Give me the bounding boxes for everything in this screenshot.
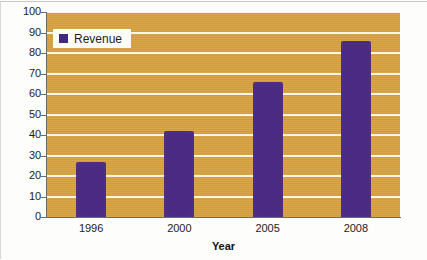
x-axis-title: Year <box>47 240 400 252</box>
y-axis-tick-label: 20 <box>3 170 41 181</box>
y-axis-line <box>46 12 47 218</box>
y-axis-tick-label: 0 <box>3 211 41 222</box>
x-axis-line <box>46 217 401 218</box>
y-axis-tick <box>41 74 46 75</box>
page-top-rule <box>0 1 427 2</box>
y-axis-tick <box>41 217 46 218</box>
y-axis-tick <box>41 156 46 157</box>
legend-swatch-revenue <box>59 34 68 43</box>
y-axis-tick <box>41 53 46 54</box>
y-axis-tick-label: 40 <box>3 129 41 140</box>
y-axis-tick <box>41 197 46 198</box>
y-axis-tick <box>41 115 46 116</box>
y-axis-tick-label: 100 <box>3 6 41 17</box>
y-axis-tick <box>41 176 46 177</box>
legend-label-revenue: Revenue <box>74 33 122 45</box>
y-axis-tick-label: 90 <box>3 27 41 38</box>
x-axis-tick-label: 2000 <box>144 222 214 234</box>
bar <box>164 131 194 217</box>
y-axis-tick-label: 60 <box>3 88 41 99</box>
y-axis-tick-label: 70 <box>3 68 41 79</box>
x-axis-tick-label: 1996 <box>56 222 126 234</box>
bar <box>341 41 371 217</box>
gridline <box>47 12 400 13</box>
bar <box>253 82 283 217</box>
y-axis-tick <box>41 33 46 34</box>
y-axis-tick-labels: 1009080706050403020100 <box>0 0 41 260</box>
y-axis-tick <box>41 12 46 13</box>
y-axis-tick-label: 30 <box>3 150 41 161</box>
chart-legend: Revenue <box>53 29 131 48</box>
x-axis-tick-label: 2005 <box>233 222 303 234</box>
y-axis-tick-label: 10 <box>3 191 41 202</box>
y-axis-tick <box>41 135 46 136</box>
y-axis-tick <box>41 94 46 95</box>
bar <box>76 162 106 217</box>
y-axis-tick-label: 80 <box>3 47 41 58</box>
y-axis-tick-label: 50 <box>3 109 41 120</box>
bar-chart-figure: 1009080706050403020100 Revenue Year 1996… <box>0 0 427 260</box>
x-axis-tick-label: 2008 <box>321 222 391 234</box>
